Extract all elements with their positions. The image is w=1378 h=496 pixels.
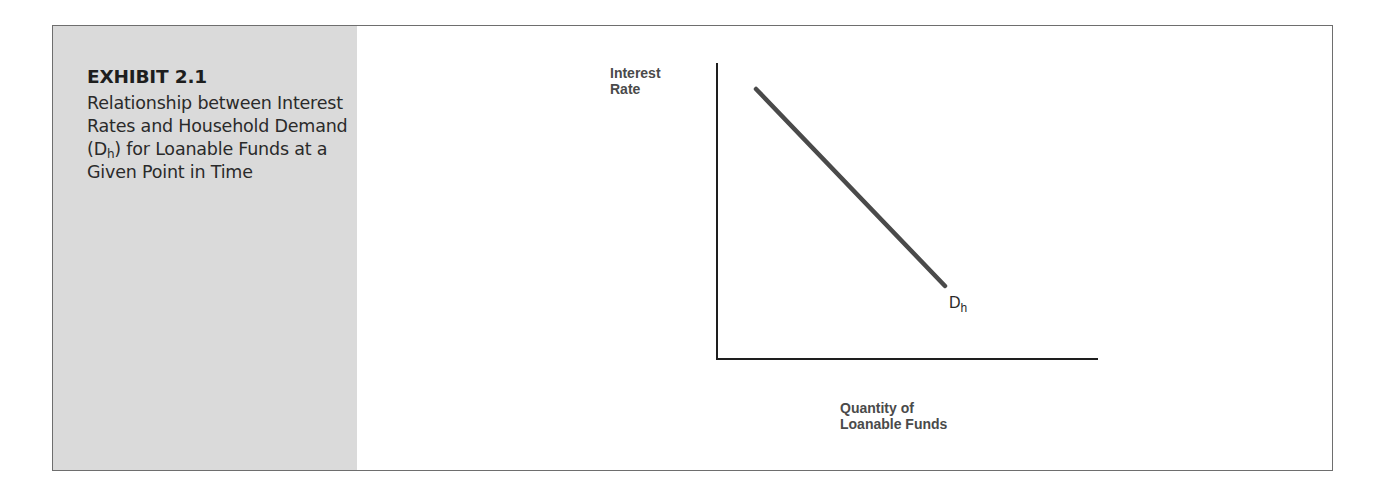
curve-label-subscript: h <box>961 301 968 315</box>
curve-label-dh: Dh <box>949 294 967 312</box>
y-axis-label-text: Interest Rate <box>610 65 680 97</box>
exhibit-frame: EXHIBIT 2.1 Relationship between Interes… <box>52 25 1333 471</box>
x-axis-label-text: Quantity of Loanable Funds <box>840 400 970 432</box>
caption-suffix: ) for Loanable Funds at a Given Point in… <box>87 139 327 182</box>
exhibit-caption: Relationship between Interest Rates and … <box>87 92 349 184</box>
y-axis-label: Interest Rate <box>610 65 680 97</box>
x-axis-label: Quantity of Loanable Funds <box>840 400 970 432</box>
exhibit-title: EXHIBIT 2.1 <box>87 66 207 87</box>
curve-label-main: D <box>949 294 961 311</box>
caption-panel: EXHIBIT 2.1 Relationship between Interes… <box>53 26 357 470</box>
